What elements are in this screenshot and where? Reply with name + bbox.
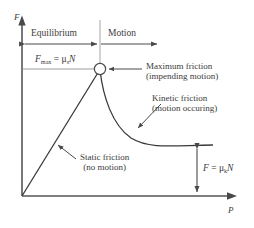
kinetic-friction-line1: Kinetic friction (152, 93, 217, 103)
kinetic-friction-annotation: Kinetic friction (motion occuring) (152, 93, 217, 113)
max-friction-line2: (impending motion) (146, 71, 218, 81)
fmax-equation-label: Fmax = μsN (35, 54, 75, 65)
impending-motion-marker (94, 63, 105, 74)
static-friction-line (22, 71, 99, 196)
kinetic-friction-line2: (motion occuring) (152, 103, 217, 113)
x-axis-arrowhead (227, 192, 237, 199)
x-axis-label: P (228, 205, 234, 215)
static-friction-line2: (no motion) (80, 162, 129, 172)
static-friction-annotation: Static friction (no motion) (80, 152, 129, 172)
static-friction-line1: Static friction (80, 152, 129, 162)
friction-force-diagram: F P Equilibrium Motion Fmax = μsN Maximu… (0, 0, 254, 228)
region-label-equilibrium: Equilibrium (31, 28, 77, 39)
region-label-motion: Motion (108, 28, 136, 39)
max-friction-line1: Maximum friction (146, 61, 218, 71)
max-friction-annotation: Maximum friction (impending motion) (146, 61, 218, 81)
y-axis-label: F (14, 12, 20, 22)
static-friction-leader (58, 145, 76, 159)
fk-equation-label: F = μkN (203, 163, 233, 174)
